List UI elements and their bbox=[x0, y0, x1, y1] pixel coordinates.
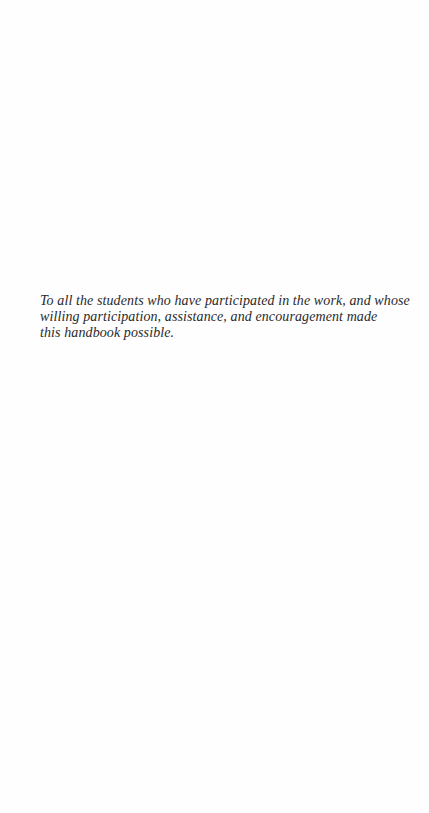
book-page: To all the students who have participate… bbox=[0, 0, 429, 813]
dedication-line-1: To all the students who have participate… bbox=[40, 293, 400, 309]
dedication-line-3: this handbook possible. bbox=[40, 325, 400, 341]
dedication-line-2: willing participation, assistance, and e… bbox=[40, 309, 400, 325]
dedication-text: To all the students who have participate… bbox=[40, 293, 400, 341]
